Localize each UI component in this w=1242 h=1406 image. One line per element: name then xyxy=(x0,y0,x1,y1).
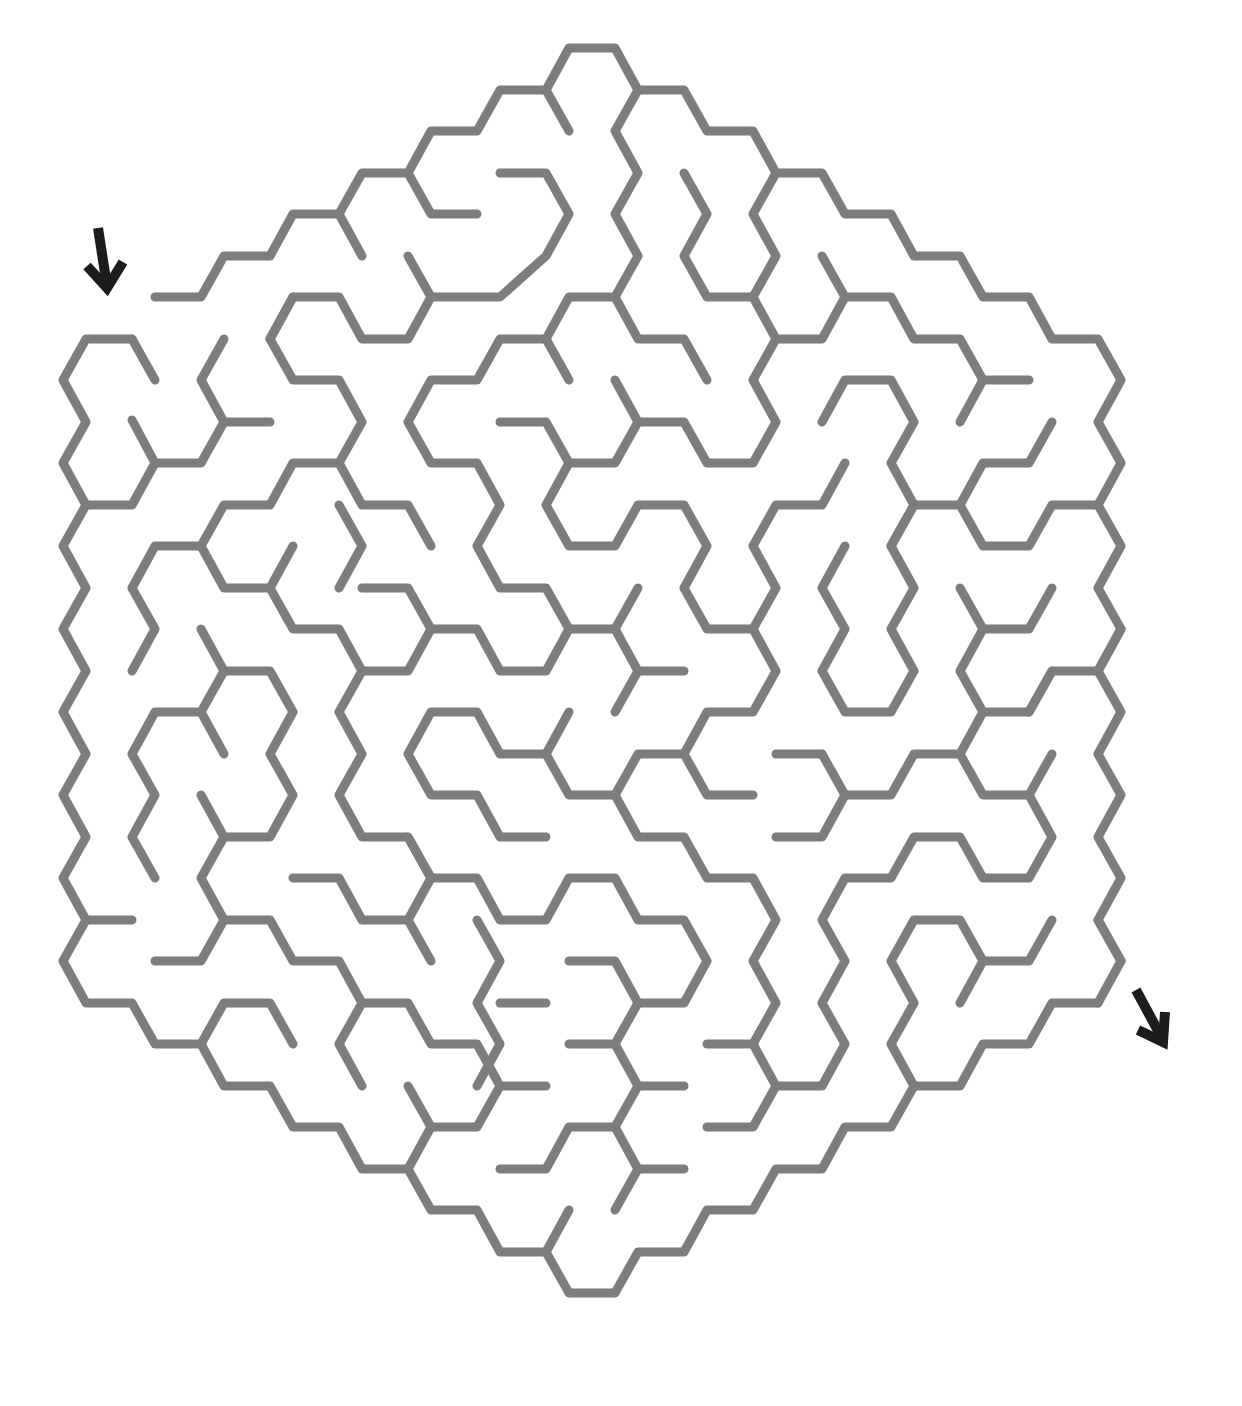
maze-wall-segment xyxy=(615,297,707,380)
maze-wall-segment xyxy=(776,754,845,837)
maze-wall-segment xyxy=(960,961,983,1003)
maze-wall-segment xyxy=(891,505,914,546)
maze-wall-segment xyxy=(339,505,362,588)
maze-wall-segment xyxy=(822,256,845,297)
maze-wall-segment xyxy=(270,546,293,588)
maze-wall-segment xyxy=(408,1086,431,1127)
maze-wall-segment xyxy=(270,297,293,339)
maze-wall-segment xyxy=(914,422,1052,505)
maze-wall-segment xyxy=(408,173,569,297)
maze-wall-segment xyxy=(201,546,431,671)
maze-wall-segment xyxy=(408,712,684,837)
maze-wall-segment xyxy=(408,173,477,214)
maze-wall-segment xyxy=(776,297,1029,380)
maze-wall-segment xyxy=(960,380,983,422)
maze-wall-segment xyxy=(615,1127,684,1169)
maze-wall-segment xyxy=(293,837,431,920)
maze-wall-segment xyxy=(914,1003,1098,1086)
maze-wall-segment xyxy=(201,339,224,422)
maze-wall-segment xyxy=(707,1086,776,1127)
maze-wall-segment xyxy=(500,422,638,463)
maze-wall-segment xyxy=(132,420,270,463)
maze-wall-segment xyxy=(546,712,569,754)
maze-wall-segment xyxy=(63,505,132,920)
maze-wall-segment xyxy=(569,588,638,629)
maze-wall-segment xyxy=(132,339,155,380)
maze-wall-segment xyxy=(1029,671,1052,712)
maze-board xyxy=(0,0,1242,1406)
maze-wall-segment xyxy=(339,1003,500,1086)
finish-arrow-icon xyxy=(1136,990,1165,1042)
maze-wall-segment xyxy=(546,90,569,131)
maze-wall-segment xyxy=(201,712,224,754)
maze-wall-segment xyxy=(546,339,569,380)
maze-wall-segment xyxy=(960,754,1029,795)
maze-wall-segment xyxy=(960,505,1098,546)
maze-wall-segment xyxy=(1098,961,1121,1003)
maze-wall-segment xyxy=(201,795,224,837)
maze-wall-segment xyxy=(155,920,362,1003)
maze-wall-segment xyxy=(615,1169,638,1210)
maze-wall-segment xyxy=(615,1044,684,1086)
maze-wall-segment xyxy=(753,173,776,297)
maze-walls xyxy=(63,48,1121,1293)
maze-wall-segment xyxy=(960,588,983,629)
maze-wall-segment xyxy=(408,920,431,961)
maze-wall-segment xyxy=(339,214,362,256)
maze-wall-segment xyxy=(822,380,914,712)
maze-wall-segment xyxy=(63,920,293,1044)
maze-wall-segment xyxy=(1098,629,1121,671)
maze-wall-segment xyxy=(546,1210,569,1252)
start-arrow-icon xyxy=(87,228,123,288)
maze-wall-segment xyxy=(132,671,293,920)
maze-wall-segment xyxy=(201,629,224,671)
maze-wall-segment xyxy=(615,629,684,671)
maze-wall-segment xyxy=(845,588,1052,795)
maze-wall-segment xyxy=(615,671,638,712)
maze-wall-segment xyxy=(569,1003,638,1044)
maze-wall-segment xyxy=(1098,920,1121,961)
